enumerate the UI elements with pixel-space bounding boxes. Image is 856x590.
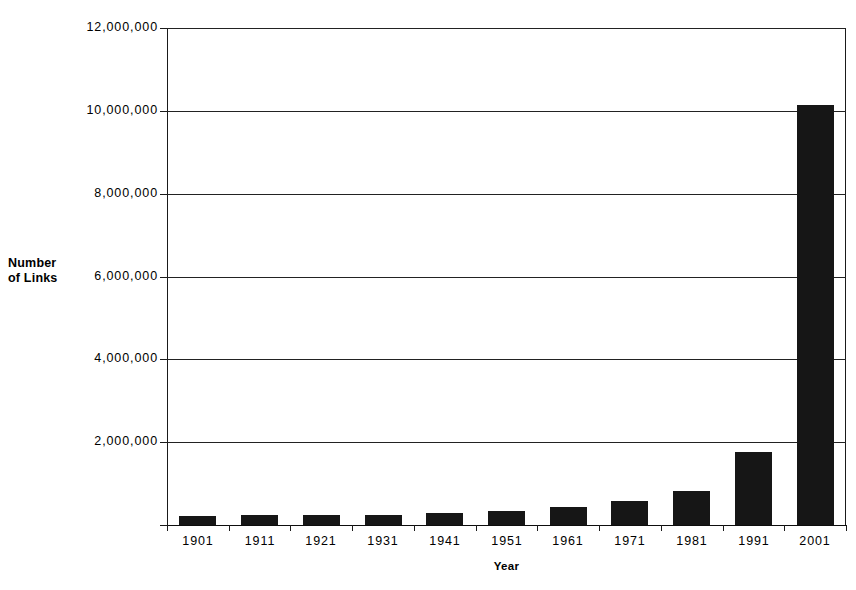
y-tick-label: 2,000,000	[52, 435, 158, 448]
y-tick-mark	[160, 28, 167, 29]
y-tick-label: 12,000,000	[52, 21, 158, 34]
x-tick-label: 1931	[352, 534, 414, 548]
bar	[611, 501, 648, 525]
x-tick-mark	[476, 525, 477, 531]
bar	[550, 507, 587, 525]
x-tick-mark	[229, 525, 230, 531]
plot-area	[167, 28, 846, 525]
x-tick-label: 1941	[414, 534, 476, 548]
y-tick-label: 8,000,000	[52, 187, 158, 200]
bar	[241, 515, 278, 525]
x-tick-label: 1901	[167, 534, 229, 548]
bar	[673, 491, 710, 525]
bar	[735, 452, 772, 525]
x-tick-label: 2001	[784, 534, 846, 548]
x-axis-baseline	[167, 525, 846, 526]
y-tick-label: 10,000,000	[52, 104, 158, 117]
bar	[303, 515, 340, 525]
y-tick-label: 6,000,000	[52, 270, 158, 283]
x-tick-mark	[537, 525, 538, 531]
x-tick-label: 1991	[723, 534, 785, 548]
x-tick-mark	[290, 525, 291, 531]
x-tick-label: 1921	[290, 534, 352, 548]
bar	[426, 513, 463, 525]
y-axis-tick-labels: 2,000,0004,000,0006,000,0008,000,00010,0…	[48, 0, 158, 590]
bar-chart-figure: Number of Links 2,000,0004,000,0006,000,…	[0, 0, 856, 590]
y-tick-label: 4,000,000	[52, 352, 158, 365]
x-tick-mark	[846, 525, 847, 531]
x-tick-label: 1971	[599, 534, 661, 548]
x-axis-title: Year	[167, 560, 846, 572]
x-tick-mark	[661, 525, 662, 531]
x-tick-label: 1951	[476, 534, 538, 548]
x-axis-tick-labels: 1901191119211931194119511961197119811991…	[167, 534, 846, 552]
x-tick-mark	[599, 525, 600, 531]
y-tick-mark	[160, 277, 167, 278]
x-tick-mark	[352, 525, 353, 531]
bar	[365, 515, 402, 525]
y-tick-mark	[160, 359, 167, 360]
y-tick-mark	[160, 111, 167, 112]
x-tick-mark	[723, 525, 724, 531]
bar	[488, 511, 525, 525]
x-tick-label: 1961	[537, 534, 599, 548]
x-tick-label: 1911	[229, 534, 291, 548]
y-tick-mark	[160, 442, 167, 443]
bars-group	[167, 28, 846, 525]
x-tick-mark	[784, 525, 785, 531]
bar	[179, 516, 216, 525]
y-tick-mark	[160, 194, 167, 195]
y-tick-mark	[160, 525, 167, 526]
x-tick-mark	[414, 525, 415, 531]
x-tick-label: 1981	[661, 534, 723, 548]
x-tick-mark	[167, 525, 168, 531]
bar	[797, 105, 834, 525]
